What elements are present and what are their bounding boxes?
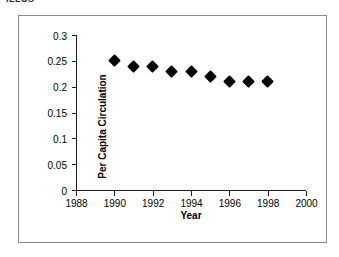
- data-point-marker: [242, 75, 255, 88]
- x-tick: 1998: [268, 191, 269, 196]
- y-tick-label: 0.05: [48, 159, 67, 170]
- y-tick-mark: [72, 35, 77, 36]
- x-tick: 1992: [153, 191, 154, 196]
- data-point-marker: [127, 60, 140, 73]
- y-tick-label: 0: [61, 185, 67, 196]
- x-tick-label: 1992: [142, 198, 164, 209]
- y-tick-label: 0.3: [53, 30, 67, 41]
- x-tick: 1996: [229, 191, 230, 196]
- y-tick-label: 0.25: [48, 56, 67, 67]
- y-tick: 0.25: [72, 61, 77, 62]
- x-tick-label: 1998: [257, 198, 279, 209]
- x-tick-mark: [306, 191, 307, 196]
- y-tick-mark: [72, 113, 77, 114]
- x-tick-mark: [191, 191, 192, 196]
- chart-frame: 00.050.10.150.20.250.3 19881990199219941…: [18, 15, 327, 243]
- plot-area: 00.050.10.150.20.250.3 19881990199219941…: [19, 16, 326, 242]
- x-tick: 2000: [306, 191, 307, 196]
- y-tick-mark: [72, 164, 77, 165]
- x-tick-label: 2000: [295, 198, 317, 209]
- x-tick-mark: [76, 191, 77, 196]
- data-point-marker: [165, 65, 178, 78]
- x-tick-mark: [114, 191, 115, 196]
- data-point-marker: [204, 70, 217, 83]
- data-point-marker: [108, 54, 121, 67]
- x-tick: 1988: [76, 191, 77, 196]
- y-tick-label: 0.2: [53, 82, 67, 93]
- x-tick-mark: [153, 191, 154, 196]
- scan-text-fragment: ILLUS: [6, 0, 35, 4]
- data-point-marker: [261, 75, 274, 88]
- y-axis-title: Per Capita Circulation: [97, 52, 108, 202]
- y-tick-mark: [72, 61, 77, 62]
- y-tick: 0.1: [72, 138, 77, 139]
- x-tick-label: 1988: [65, 198, 87, 209]
- x-tick-label: 1996: [219, 198, 241, 209]
- y-tick: 0.2: [72, 87, 77, 88]
- y-tick: 0.3: [72, 35, 77, 36]
- data-point-marker: [223, 75, 236, 88]
- y-tick: 0.15: [72, 113, 77, 114]
- data-point-marker: [185, 65, 198, 78]
- x-axis-title: Year: [76, 210, 306, 221]
- y-tick-mark: [72, 87, 77, 88]
- data-point-marker: [146, 60, 159, 73]
- x-tick: 1990: [114, 191, 115, 196]
- y-tick-label: 0.15: [48, 108, 67, 119]
- x-tick: 1994: [191, 191, 192, 196]
- y-tick-mark: [72, 138, 77, 139]
- y-tick-label: 0.1: [53, 133, 67, 144]
- x-tick-mark: [229, 191, 230, 196]
- x-tick-mark: [268, 191, 269, 196]
- x-tick-label: 1994: [180, 198, 202, 209]
- y-tick: 0.05: [72, 164, 77, 165]
